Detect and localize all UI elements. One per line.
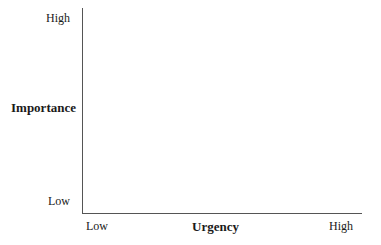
- x-axis-low-label: Low: [86, 219, 108, 234]
- x-axis-high-label: High: [329, 219, 353, 234]
- y-axis-line: [82, 8, 83, 214]
- y-axis-high-label: High: [46, 11, 70, 26]
- x-axis-line: [82, 213, 362, 214]
- y-axis-low-label: Low: [48, 194, 70, 209]
- x-axis-title: Urgency: [192, 219, 239, 235]
- y-axis-title: Importance: [11, 100, 76, 116]
